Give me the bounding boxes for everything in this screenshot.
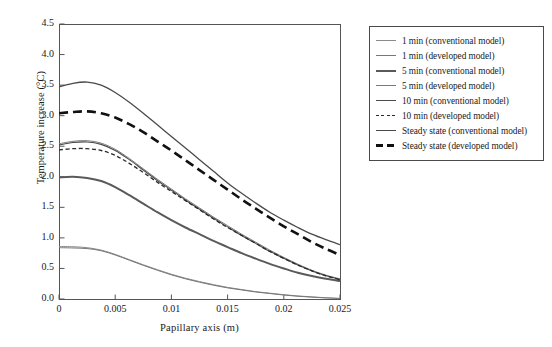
series-group (59, 82, 340, 299)
legend-line-swatch-icon (375, 140, 397, 152)
legend-line-swatch-icon (375, 35, 397, 47)
plot-frame (60, 25, 341, 300)
legend-label: 10 min (developed model) (402, 110, 499, 122)
legend-line-swatch-icon (375, 110, 397, 122)
legend-item-0[interactable]: 1 min (conventional model) (375, 33, 538, 48)
legend-label: 1 min (conventional model) (402, 35, 504, 47)
series-line-6 (59, 82, 340, 245)
series-line-5 (59, 148, 340, 279)
legend-item-4[interactable]: 10 min (conventional model) (375, 93, 538, 108)
series-line-4 (59, 142, 340, 280)
legend-item-5[interactable]: 10 min (developed model) (375, 108, 538, 123)
chart-figure: Temperature increase (°C) Papillary axis… (0, 0, 552, 347)
legend-label: 5 min (developed model) (402, 80, 495, 92)
legend-item-2[interactable]: 5 min (conventional model) (375, 63, 538, 78)
legend-item-1[interactable]: 1 min (developed model) (375, 48, 538, 63)
chart-legend: 1 min (conventional model)1 min (develop… (369, 26, 544, 161)
legend-label: 5 min (conventional model) (402, 65, 504, 77)
legend-label: 10 min (conventional model) (402, 95, 509, 107)
legend-line-swatch-icon (375, 95, 397, 107)
legend-line-swatch-icon (375, 80, 397, 92)
legend-item-3[interactable]: 5 min (developed model) (375, 78, 538, 93)
legend-line-swatch-icon (375, 50, 397, 62)
legend-item-7[interactable]: Steady state (developed model) (375, 138, 538, 153)
legend-label: Steady state (developed model) (402, 140, 517, 152)
legend-line-swatch-icon (375, 65, 397, 77)
legend-item-6[interactable]: Steady state (conventional model) (375, 123, 538, 138)
legend-line-swatch-icon (375, 125, 397, 137)
legend-label: 1 min (developed model) (402, 50, 495, 62)
legend-label: Steady state (conventional model) (402, 125, 527, 137)
